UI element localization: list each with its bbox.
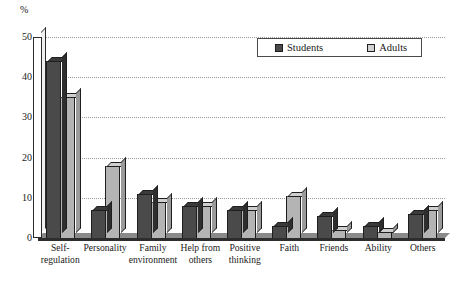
- x-axis-labels: Self-regulationPersonalityFamilyenvironm…: [38, 242, 445, 280]
- bar-group: [219, 37, 264, 238]
- bar-students-3: [182, 206, 197, 238]
- bar-group: [355, 37, 400, 238]
- x-label-line2: thinking: [224, 254, 266, 266]
- bar-group: [264, 37, 309, 238]
- bar-students-8: [408, 214, 423, 238]
- x-axis-label-0: Self-regulation: [38, 242, 82, 280]
- chart-legend: Students Adults: [257, 38, 422, 57]
- x-axis-label-5: Faith: [267, 242, 311, 280]
- y-tick-label-0: 0: [6, 233, 32, 243]
- bar-chart: % 01020304050 Students Adults Self-regul…: [0, 0, 456, 281]
- x-label-line1: Family: [129, 242, 178, 254]
- bar-rect: [137, 194, 152, 238]
- x-label-line1: Personality: [83, 242, 126, 254]
- legend-label-students: Students: [287, 42, 323, 53]
- y-tick-label-50: 50: [6, 32, 32, 42]
- bar-students-0: [46, 61, 61, 238]
- x-axis-label-3: Help fromothers: [178, 242, 222, 280]
- bar-students-1: [91, 210, 106, 238]
- x-axis-label-1: Personality: [82, 242, 127, 280]
- bar-rect: [227, 210, 242, 238]
- x-label-line1: Friends: [313, 242, 355, 254]
- bar-rect: [363, 226, 378, 238]
- x-label-line2: environment: [129, 254, 178, 266]
- y-tick-label-20: 20: [6, 153, 32, 163]
- bar-students-7: [363, 226, 378, 238]
- bar-rect: [182, 206, 197, 238]
- x-axis-label-8: Others: [400, 242, 444, 280]
- x-label-line2: others: [179, 254, 221, 266]
- bar-group: [128, 37, 173, 238]
- x-label-line1: Self-: [39, 242, 81, 254]
- y-axis-bar: [33, 37, 42, 238]
- x-label-line1: Faith: [268, 242, 310, 254]
- bar-group: [174, 37, 219, 238]
- bar-group: [309, 37, 354, 238]
- legend-item-students: Students: [275, 42, 323, 53]
- x-label-line1: Positive: [224, 242, 266, 254]
- plot-baseline: [38, 238, 445, 241]
- x-axis-label-2: Familyenvironment: [128, 242, 179, 280]
- y-axis-unit-label: %: [20, 4, 29, 15]
- x-label-line2: regulation: [39, 254, 81, 266]
- y-tick-label-40: 40: [6, 72, 32, 82]
- bar-rect: [91, 210, 106, 238]
- bar-students-5: [272, 226, 287, 238]
- legend-label-adults: Adults: [379, 42, 407, 53]
- x-label-line1: Ability: [357, 242, 399, 254]
- bar-rect: [317, 216, 332, 238]
- bar-rect: [272, 226, 287, 238]
- y-tick-label-10: 10: [6, 193, 32, 203]
- legend-swatch-students-icon: [275, 44, 283, 52]
- y-tick-label-30: 30: [6, 112, 32, 122]
- x-label-line1: Others: [401, 242, 443, 254]
- bar-groups: [38, 37, 445, 238]
- bar-students-4: [227, 210, 242, 238]
- bar-students-6: [317, 216, 332, 238]
- bar-rect: [408, 214, 423, 238]
- legend-item-adults: Adults: [367, 42, 407, 53]
- legend-swatch-adults-icon: [367, 44, 375, 52]
- x-axis-label-4: Positivethinking: [223, 242, 267, 280]
- bar-rect: [46, 61, 61, 238]
- bar-group: [400, 37, 445, 238]
- bar-group: [83, 37, 128, 238]
- x-axis-label-6: Friends: [312, 242, 356, 280]
- x-label-line1: Help from: [179, 242, 221, 254]
- bar-students-2: [137, 194, 152, 238]
- x-axis-label-7: Ability: [356, 242, 400, 280]
